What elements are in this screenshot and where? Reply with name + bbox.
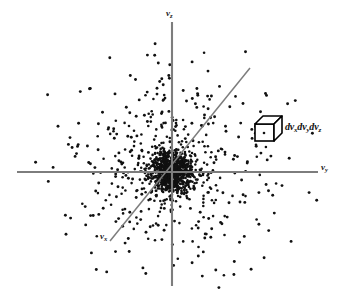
volume-element-label: dvxdvydvz bbox=[285, 122, 321, 132]
volume-element-term-x-sub: x bbox=[294, 126, 297, 134]
volume-element-term-y-sub: y bbox=[306, 126, 309, 134]
vx-axis-label-subscript: x bbox=[104, 235, 107, 242]
vx-axis-label: vx bbox=[100, 232, 107, 241]
cube-interior-dot bbox=[263, 132, 266, 135]
volume-element-term-z-sub: z bbox=[318, 126, 321, 134]
vy-axis-label-subscript: y bbox=[325, 166, 328, 173]
vz-axis-label-subscript: z bbox=[170, 12, 173, 19]
velocity-space-diagram: vz vy vx dvxdvydvz bbox=[0, 0, 349, 293]
volume-element-term-y: dvy bbox=[297, 121, 309, 132]
volume-element-cube bbox=[0, 0, 349, 293]
vz-axis-label: vz bbox=[166, 9, 173, 18]
vy-axis-label: vy bbox=[321, 163, 328, 172]
volume-element-term-x-d: dv bbox=[285, 121, 294, 132]
volume-element-term-z: dvz bbox=[309, 121, 321, 132]
volume-element-term-x: dvx bbox=[285, 121, 297, 132]
